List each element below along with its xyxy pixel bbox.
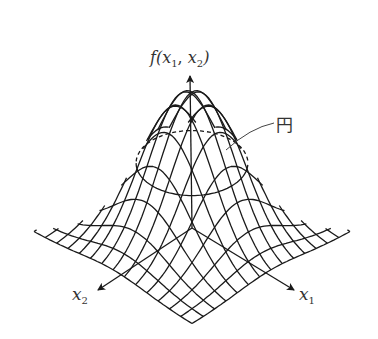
x2-axis-label: x2 — [72, 284, 88, 306]
axes — [98, 76, 294, 290]
circle-leader-line — [226, 123, 274, 150]
circle-annotation-label: 円 — [276, 111, 293, 136]
f-axis-label: f(x1, x2) — [150, 48, 209, 69]
gaussian-surface-diagram: f(x1, x2) x2 x1 円 — [0, 0, 378, 339]
x1-axis-label: x1 — [299, 284, 315, 306]
